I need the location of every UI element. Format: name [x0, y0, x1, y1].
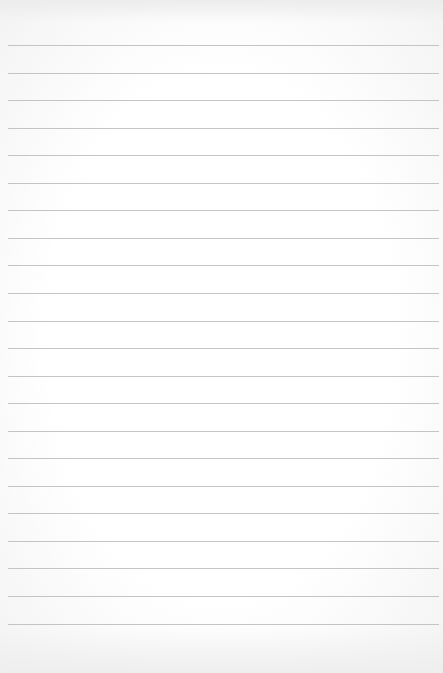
ruled-line	[8, 403, 439, 404]
ruled-line	[8, 458, 439, 459]
ruled-line	[8, 596, 439, 597]
ruled-line	[8, 513, 439, 514]
ruled-line	[8, 376, 439, 377]
ruled-line	[8, 624, 439, 625]
ruled-line	[8, 128, 439, 129]
paper-top-edge	[0, 0, 443, 22]
ruled-line	[8, 431, 439, 432]
ruled-line	[8, 486, 439, 487]
ruled-line	[8, 265, 439, 266]
ruled-line	[8, 45, 439, 46]
ruled-line	[8, 100, 439, 101]
ruled-line	[8, 541, 439, 542]
ruled-line	[8, 155, 439, 156]
ruled-line	[8, 321, 439, 322]
paper-bottom-edge	[0, 628, 443, 673]
ruled-paper	[0, 0, 443, 673]
ruled-line	[8, 183, 439, 184]
ruled-line	[8, 348, 439, 349]
ruled-line	[8, 293, 439, 294]
ruled-line	[8, 568, 439, 569]
ruled-line	[8, 210, 439, 211]
ruled-line	[8, 238, 439, 239]
ruled-line	[8, 73, 439, 74]
